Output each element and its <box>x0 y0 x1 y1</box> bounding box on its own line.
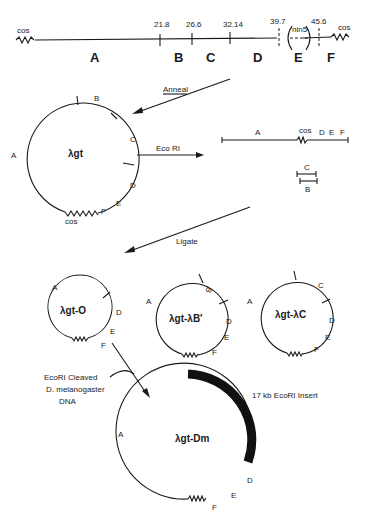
lambda-cloning-diagram: cos cos nin5 21.8 26.6 32.14 39.7 45.6 A… <box>0 0 368 520</box>
selection-arrow-line <box>112 343 146 393</box>
insert-block <box>188 374 252 462</box>
lgt-label-a: A <box>11 151 17 160</box>
anneal-label: Anneal <box>163 85 188 94</box>
product-name: λgt-O <box>60 305 86 316</box>
lgt-label-f: F <box>101 207 106 216</box>
final-label-e: E <box>231 491 236 500</box>
frag-label-e: E <box>329 128 334 137</box>
lgt-circle-arc <box>27 103 139 213</box>
site-tick <box>103 292 110 298</box>
product-name: λgt-λB′ <box>169 313 203 324</box>
label-e: E <box>224 333 229 342</box>
cos-zigzag-icon <box>65 211 98 216</box>
frag-b-label: B <box>305 185 310 194</box>
cos-left-label: cos <box>17 26 29 35</box>
cos-right-label: cos <box>338 23 350 32</box>
cos-zigzag-icon <box>188 496 206 501</box>
product-lgt-o: λgt-O A D E F <box>48 275 122 350</box>
site-tick <box>199 274 203 283</box>
pos-label: 26.6 <box>186 20 202 29</box>
circle-lambda-gt: λgt B C A D E F cos <box>11 94 139 226</box>
product-name: λgt-λC <box>275 309 306 320</box>
lgt-label-c: C <box>130 135 136 144</box>
frag-label-cos: cos <box>299 126 311 135</box>
final-label-a: A <box>118 430 124 439</box>
final-label-f: F <box>212 503 217 512</box>
lgt-label-e: E <box>116 199 121 208</box>
site-tick <box>219 300 228 304</box>
lgt-label-cos: cos <box>65 217 77 226</box>
product-lgt-lambda-c: λgt-λC A C D E F <box>247 271 335 356</box>
insert-source-line1: EcoRI Cleaved <box>44 373 97 382</box>
final-circle-arc <box>116 363 252 499</box>
arrow-head-icon <box>132 107 143 114</box>
ecori-step: Eco RI <box>137 144 204 158</box>
label-e: E <box>325 333 330 342</box>
pos-label: 45.6 <box>311 17 327 26</box>
cos-zigzag-icon <box>72 337 88 341</box>
cos-zigzag-icon <box>297 137 307 143</box>
linear-fragments: A cos D E F C B <box>222 126 348 194</box>
label-f: F <box>212 348 217 357</box>
site-tick <box>123 163 134 165</box>
cos-left-zigzag-icon <box>16 37 34 43</box>
final-label-d: D <box>247 476 253 485</box>
product-lgt-b-prime: λgt-λB′ A B D E F <box>146 274 232 357</box>
pos-label: 32.14 <box>223 20 244 29</box>
label-e: E <box>110 327 115 336</box>
cos-zigzag-icon <box>287 352 303 356</box>
nin5-label: nin5 <box>292 25 308 34</box>
label-b-rotated: B <box>203 286 213 295</box>
anneal-arrow-line <box>138 79 230 112</box>
pos-label: 39.7 <box>270 17 286 26</box>
lgt-name: λgt <box>68 148 84 159</box>
ecori-label: Eco RI <box>156 144 180 153</box>
insert-label: 17 kb EcoRI Insert <box>252 391 319 400</box>
segment-label: A <box>90 50 100 65</box>
site-tick <box>294 271 296 280</box>
ligate-step: Ligate <box>124 207 250 253</box>
insert-curve-arrow <box>110 371 134 377</box>
cos-zigzag-icon <box>182 353 198 357</box>
map-line <box>35 38 277 40</box>
segment-label: E <box>294 50 303 65</box>
segment-label: C <box>206 50 216 65</box>
segment-label: F <box>327 50 335 65</box>
arrow-head-icon <box>196 152 204 158</box>
segment-label: B <box>174 50 183 65</box>
lgt-label-b: B <box>94 94 99 103</box>
label-d: D <box>116 308 122 317</box>
segment-label: D <box>253 50 262 65</box>
anneal-step: Anneal <box>132 79 230 114</box>
insert-source-line2: D. melanogaster <box>46 385 105 394</box>
frag-label-f: F <box>340 128 345 137</box>
label-c: C <box>318 281 324 290</box>
lgt-label-d: D <box>130 181 136 190</box>
cos-right-zigzag-icon <box>331 34 349 40</box>
top-linear-map: cos cos nin5 21.8 26.6 32.14 39.7 45.6 A… <box>16 17 350 65</box>
label-a: A <box>247 297 253 306</box>
final-name: λgt-Dm <box>175 433 210 444</box>
label-d: D <box>329 316 335 325</box>
label-a: A <box>52 283 58 292</box>
frag-c-label: C <box>304 163 310 172</box>
insert-source-line3: DNA <box>59 397 77 406</box>
arrow-head-icon <box>124 246 135 253</box>
ligate-label: Ligate <box>176 237 198 246</box>
insert-source: EcoRI Cleaved D. melanogaster DNA <box>44 373 105 406</box>
frag-label-d: D <box>319 128 325 137</box>
label-f: F <box>314 345 319 354</box>
pos-label: 21.8 <box>154 20 170 29</box>
label-d: D <box>226 317 232 326</box>
label-f: F <box>101 341 106 350</box>
final-lgt-dm: λgt-Dm 17 kb EcoRI Insert A D E F <box>116 363 319 512</box>
frag-label-a: A <box>255 128 261 137</box>
label-a: A <box>146 297 152 306</box>
